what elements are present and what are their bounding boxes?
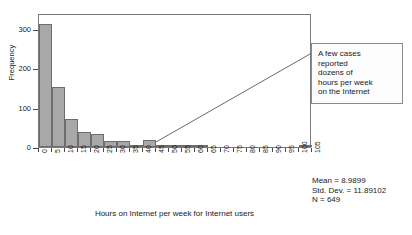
x-axis-tick-label: 70 <box>223 145 230 153</box>
x-axis: 0510152025303540455055606570758085909510… <box>38 148 311 188</box>
x-axis-tick-label: 0 <box>41 149 48 153</box>
x-axis-tick <box>103 148 104 152</box>
callout-annotation: A few cases reported dozens of hours per… <box>311 43 403 104</box>
callout-line-4: hours per week <box>318 78 373 87</box>
x-axis-tick-label: 105 <box>314 141 321 153</box>
x-axis-tick-label: 40 <box>145 145 152 153</box>
x-axis-tick-label: 75 <box>236 145 243 153</box>
x-axis-tick <box>311 148 312 152</box>
x-axis-tick-label: 5 <box>54 149 61 153</box>
stat-mean: Mean = 8.9899 <box>312 176 386 186</box>
stat-n: N = 649 <box>312 195 386 205</box>
y-axis-tick-label: 0 <box>27 144 31 152</box>
callout-line-3: dozens of <box>318 68 353 77</box>
x-axis-tick-label: 100 <box>301 141 308 153</box>
x-axis-tick <box>116 148 117 152</box>
x-axis-tick <box>64 148 65 152</box>
x-axis-tick <box>285 148 286 152</box>
x-axis-tick <box>207 148 208 152</box>
callout-line-2: reported <box>318 59 348 68</box>
x-axis-tick <box>220 148 221 152</box>
x-axis-tick <box>246 148 247 152</box>
callout-line-1: A few cases <box>318 49 361 58</box>
x-axis-tick-label: 20 <box>93 145 100 153</box>
y-axis-tick-label: 300 <box>18 26 31 34</box>
x-axis-tick-label: 90 <box>275 145 282 153</box>
x-axis-tick-label: 15 <box>80 145 87 153</box>
x-axis-tick-label: 85 <box>262 145 269 153</box>
x-axis-tick-label: 45 <box>158 145 165 153</box>
statistics-block: Mean = 8.9899 Std. Dev. = 11.89102 N = 6… <box>312 176 386 205</box>
x-axis-tick-label: 10 <box>67 145 74 153</box>
x-axis-tick-label: 50 <box>171 145 178 153</box>
bars-layer <box>39 15 310 147</box>
y-axis: Frequency 0100200300 <box>0 0 38 162</box>
x-axis-tick-label: 65 <box>210 145 217 153</box>
histogram-bar <box>39 24 52 147</box>
x-axis-tick-label: 95 <box>288 145 295 153</box>
x-axis-tick-label: 80 <box>249 145 256 153</box>
x-axis-tick-label: 25 <box>106 145 113 153</box>
y-axis-tick-label: 200 <box>18 65 31 73</box>
x-axis-tick <box>181 148 182 152</box>
histogram-figure: Frequency 0100200300 0510152025303540455… <box>0 0 412 235</box>
x-axis-tick-label: 30 <box>119 145 126 153</box>
x-axis-tick <box>259 148 260 152</box>
x-axis-tick <box>142 148 143 152</box>
y-axis-tick-label: 100 <box>18 105 31 113</box>
x-axis-tick <box>298 148 299 152</box>
x-axis-title: Hours on Internet per week for Internet … <box>38 209 311 218</box>
x-axis-tick <box>272 148 273 152</box>
plot-area <box>38 14 311 148</box>
x-axis-tick <box>155 148 156 152</box>
x-axis-tick-label: 35 <box>132 145 139 153</box>
x-axis-tick <box>168 148 169 152</box>
x-axis-tick <box>77 148 78 152</box>
x-axis-tick <box>51 148 52 152</box>
histogram-bar <box>52 87 65 147</box>
stat-std-dev: Std. Dev. = 11.89102 <box>312 186 386 196</box>
callout-line-5: on the Internet <box>318 87 370 96</box>
x-axis-tick <box>38 148 39 152</box>
x-axis-tick-label: 55 <box>184 145 191 153</box>
x-axis-tick-label: 60 <box>197 145 204 153</box>
histogram-bar <box>65 119 78 147</box>
x-axis-tick <box>129 148 130 152</box>
x-axis-tick <box>194 148 195 152</box>
y-axis-title: Frequency <box>7 33 16 93</box>
x-axis-tick <box>233 148 234 152</box>
x-axis-tick <box>90 148 91 152</box>
